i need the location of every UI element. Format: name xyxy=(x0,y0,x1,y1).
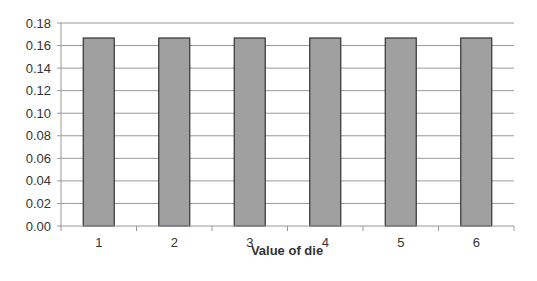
x-tick-label: 2 xyxy=(171,235,178,250)
axes xyxy=(61,23,514,226)
x-tick-label: 1 xyxy=(95,235,102,250)
y-axis-ticks: 0.000.020.040.060.080.100.120.140.160.18 xyxy=(26,16,61,234)
y-tick-label: 0.18 xyxy=(26,16,51,31)
y-tick-label: 0.14 xyxy=(26,61,51,76)
y-tick-label: 0.04 xyxy=(26,173,51,188)
y-tick-label: 0.00 xyxy=(26,219,51,234)
bar-2 xyxy=(159,38,190,226)
bar-4 xyxy=(310,38,341,226)
y-tick-label: 0.16 xyxy=(26,38,51,53)
y-tick-label: 0.06 xyxy=(26,151,51,166)
bar-1 xyxy=(83,38,114,226)
x-axis-label: Value of die xyxy=(251,243,323,258)
bars xyxy=(83,38,492,226)
y-tick-label: 0.10 xyxy=(26,106,51,121)
bar-chart: 0.000.020.040.060.080.100.120.140.160.18… xyxy=(0,0,537,281)
y-tick-label: 0.08 xyxy=(26,128,51,143)
x-tick-label: 6 xyxy=(473,235,480,250)
gridlines xyxy=(61,23,514,203)
x-tick-label: 5 xyxy=(397,235,404,250)
bar-5 xyxy=(385,38,416,226)
y-tick-label: 0.12 xyxy=(26,83,51,98)
y-tick-label: 0.02 xyxy=(26,196,51,211)
bar-6 xyxy=(461,38,492,226)
bar-3 xyxy=(234,38,265,226)
